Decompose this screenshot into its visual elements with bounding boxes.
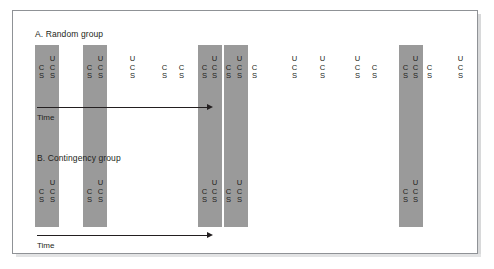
us-letter-s: S: [96, 196, 105, 205]
cs-letter-s: S: [85, 72, 94, 81]
cs-letter-s: S: [401, 72, 410, 81]
us-stack-b-2: U C S: [96, 179, 105, 205]
cs-stack-a-13: U C S: [401, 55, 410, 81]
cs-letter-s: S: [200, 196, 209, 205]
us-stack-a-1: U C S: [48, 55, 57, 81]
shade-bar-mid-2: [83, 107, 107, 227]
us-stack-a-6: U C S: [210, 55, 219, 81]
us-stack-b-3: U C S: [210, 179, 219, 205]
us-letter-s: S: [235, 196, 244, 205]
cs-stack-a-2: U C S: [85, 55, 94, 81]
us-letter-s: S: [235, 72, 244, 81]
cs-stack-b-1: U C S: [37, 179, 46, 205]
time-label-a: Time: [37, 113, 54, 122]
us-stack-b-5: U C S: [411, 179, 420, 205]
cs-letter-s: S: [224, 72, 233, 81]
cs-stack-a-7: U C S: [224, 55, 233, 81]
panel-b-title: B. Contingency group: [37, 153, 121, 163]
cs-letter-s: S: [37, 196, 46, 205]
cs-stack-b-4: U C S: [224, 179, 233, 205]
shade-bar-mid-3: [198, 107, 222, 227]
cs-letter-s: S: [177, 72, 186, 81]
us-stack-a-10: U C S: [318, 55, 327, 81]
cs-letter-s: S: [401, 196, 410, 205]
time-arrow-line-a: [37, 107, 207, 108]
cs-letter-s: S: [85, 196, 94, 205]
us-letter-s: S: [411, 196, 420, 205]
cs-stack-a-1: U C S: [37, 55, 46, 81]
cs-stack-a-6: U C S: [200, 55, 209, 81]
us-letter-s: S: [210, 72, 219, 81]
cs-letter-s: S: [425, 72, 434, 81]
cs-letter-s: S: [200, 72, 209, 81]
us-letter-s: S: [456, 72, 465, 81]
cs-stack-a-4: U C S: [160, 55, 169, 81]
cs-letter-s: S: [370, 72, 379, 81]
figure-frame: A. Random group U C S U C S U C S U C S …: [12, 10, 478, 254]
shade-bar-mid-1: [35, 107, 59, 227]
us-letter-s: S: [290, 72, 299, 81]
us-letter-s: S: [318, 72, 327, 81]
us-letter-s: S: [210, 196, 219, 205]
us-letter-s: S: [96, 72, 105, 81]
us-stack-a-13: U C S: [411, 55, 420, 81]
shade-bar-b-right: [399, 107, 423, 227]
cs-stack-b-2: U C S: [85, 179, 94, 205]
frame-shadow-bottom: [16, 254, 481, 257]
us-stack-b-1: U C S: [48, 179, 57, 205]
us-stack-a-2: U C S: [96, 55, 105, 81]
cs-stack-a-8: U C S: [250, 55, 259, 81]
bar-gap-line-lower: [222, 107, 224, 227]
us-stack-a-9: U C S: [290, 55, 299, 81]
cs-stack-b-3: U C S: [200, 179, 209, 205]
us-stack-a-15: U C S: [456, 55, 465, 81]
cs-letter-s: S: [160, 72, 169, 81]
figure-page: A. Random group U C S U C S U C S U C S …: [0, 0, 494, 269]
us-stack-b-4: U C S: [235, 179, 244, 205]
frame-shadow-right: [478, 14, 481, 257]
us-letter-s: S: [48, 196, 57, 205]
cs-letter-s: S: [224, 196, 233, 205]
us-letter-s: S: [353, 72, 362, 81]
cs-stack-a-12: U C S: [370, 55, 379, 81]
cs-letter-s: S: [37, 72, 46, 81]
us-letter-s: S: [411, 72, 420, 81]
time-arrow-head-a: [207, 104, 213, 110]
cs-stack-a-5: U C S: [177, 55, 186, 81]
time-label-b: Time: [37, 241, 54, 250]
us-stack-a-11: U C S: [353, 55, 362, 81]
us-letter-s: S: [48, 72, 57, 81]
time-arrow-head-b: [207, 232, 213, 238]
time-arrow-line-b: [37, 235, 207, 236]
cs-stack-b-5: U C S: [401, 179, 410, 205]
cs-stack-a-14: U C S: [425, 55, 434, 81]
us-letter-s: S: [128, 72, 137, 81]
panel-a-title: A. Random group: [35, 29, 103, 39]
us-stack-a-7: U C S: [235, 55, 244, 81]
cs-letter-s: S: [250, 72, 259, 81]
us-stack-a-3: U C S: [128, 55, 137, 81]
shade-bar-mid-4: [224, 107, 248, 227]
